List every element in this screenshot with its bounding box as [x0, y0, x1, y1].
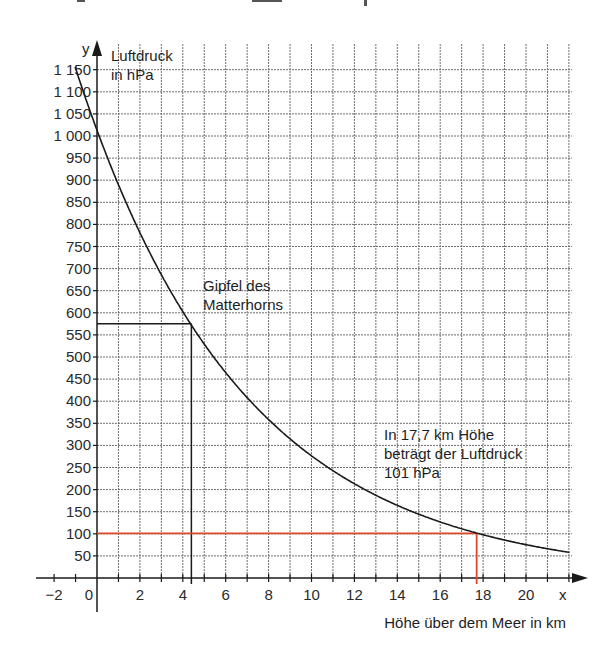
x-axis-arrow-icon	[572, 573, 588, 583]
y-tick-label: 400	[66, 392, 91, 409]
cropped-header-fragments	[77, 0, 367, 6]
x-tick-label: 18	[475, 586, 492, 603]
x-tick-label: 10	[303, 586, 320, 603]
pressure-curve	[75, 67, 569, 553]
y-tick-label: 1 150	[53, 61, 91, 78]
y-tick-label: 350	[66, 414, 91, 431]
y-tick-label: 600	[66, 304, 91, 321]
x-tick-label: −2	[46, 586, 63, 603]
y-unit-label-line1: Luftdruck	[111, 47, 173, 64]
y-tick-label: 1 050	[53, 105, 91, 122]
y-tick-label: 200	[66, 481, 91, 498]
y-axis-arrow-icon	[92, 40, 102, 56]
y-tick-label: 650	[66, 282, 91, 299]
y-tick-label: 900	[66, 171, 91, 188]
y-tick-label: 150	[66, 503, 91, 520]
x-tick-label: 4	[179, 586, 187, 603]
x-tick-label: 20	[518, 586, 535, 603]
x-tick-label: 14	[389, 586, 406, 603]
y-tick-label: 450	[66, 370, 91, 387]
x-tick-label: 6	[222, 586, 230, 603]
y-tick-label: 1 000	[53, 127, 91, 144]
annotations: y Luftdruck in hPa Gipfel des Matterhorn…	[82, 40, 567, 631]
y-tick-label: 100	[66, 525, 91, 542]
matterhorn-label-line2: Matterhorns	[203, 296, 283, 313]
fragment	[252, 0, 282, 2]
x-tick-label: 8	[264, 586, 272, 603]
y-tick-label: 850	[66, 193, 91, 210]
x-tick-label: 12	[346, 586, 363, 603]
y-tick-label: 50	[74, 547, 91, 564]
note-line1: In 17,7 km Höhe	[384, 426, 494, 443]
x-tick-label: 16	[432, 586, 449, 603]
matterhorn-label-line1: Gipfel des	[203, 277, 271, 294]
fragment	[364, 0, 367, 6]
y-tick-label: 550	[66, 326, 91, 343]
x-tick-label: 2	[136, 586, 144, 603]
note-line2: beträgt der Luftdruck	[384, 445, 523, 462]
fragment	[77, 0, 85, 2]
y-unit-label-line2: in hPa	[111, 66, 154, 83]
y-tick-label: 250	[66, 459, 91, 476]
x-axis-title: Höhe über dem Meer in km	[384, 614, 566, 631]
y-tick-label: 750	[66, 238, 91, 255]
y-tick-label: 700	[66, 260, 91, 277]
grid-lines	[97, 44, 572, 578]
air-pressure-chart: −202468101214161820501001502002503003504…	[0, 0, 592, 660]
x-axis-symbol: x	[559, 586, 567, 603]
y-tick-label: 800	[66, 215, 91, 232]
y-axis-symbol: y	[82, 40, 90, 57]
y-tick-label: 300	[66, 436, 91, 453]
x-tick-label: 0	[85, 586, 93, 603]
note-line3: 101 hPa	[384, 464, 441, 481]
y-tick-label: 950	[66, 149, 91, 166]
y-tick-label: 500	[66, 348, 91, 365]
